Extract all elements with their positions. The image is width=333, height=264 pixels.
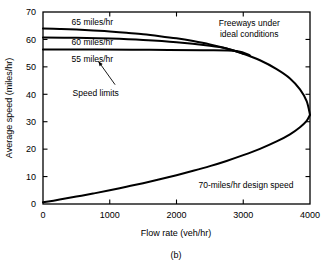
label-55: 55 miles/hr — [72, 54, 114, 64]
x-tick-label: 0 — [40, 210, 45, 220]
label-freeways-line1: Freeways under — [219, 18, 280, 28]
x-tick-label: 2000 — [166, 210, 186, 220]
y-tick-label: 40 — [26, 90, 36, 100]
label-60: 60 miles/hr — [72, 37, 114, 47]
chart-canvas: 01000200030004000 010203040506070 65 mil… — [0, 0, 333, 264]
y-tick-label: 0 — [31, 199, 36, 209]
figure-container: 01000200030004000 010203040506070 65 mil… — [0, 0, 333, 264]
x-tick-label: 1000 — [100, 210, 120, 220]
y-tick-label: 50 — [26, 62, 36, 72]
label-freeways-line2: ideal conditions — [220, 29, 279, 39]
label-design-speed: 70-miles/hr design speed — [198, 180, 293, 190]
y-axis-title: Average speed (miles/hr) — [4, 58, 14, 158]
x-axis-title: Flow rate (veh/hr) — [141, 228, 212, 238]
speed-limits-arrow — [98, 61, 115, 84]
label-65: 65 miles/hr — [72, 17, 114, 27]
x-tick-label: 4000 — [300, 210, 320, 220]
x-tick-labels: 01000200030004000 — [40, 210, 320, 220]
x-tick-label: 3000 — [233, 210, 253, 220]
y-tick-label: 20 — [26, 144, 36, 154]
y-tick-label: 60 — [26, 35, 36, 45]
y-tick-label: 30 — [26, 117, 36, 127]
y-tick-labels: 010203040506070 — [26, 7, 36, 209]
label-speed-limits: Speed limits — [73, 88, 119, 98]
figure-caption: (b) — [171, 250, 182, 260]
y-tick-label: 70 — [26, 7, 36, 17]
y-tick-label: 10 — [26, 172, 36, 182]
